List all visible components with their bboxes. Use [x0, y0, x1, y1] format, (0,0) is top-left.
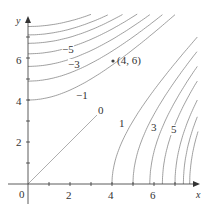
y-tick-4: 4 [16, 95, 22, 107]
point-label: (4, 6) [117, 54, 141, 67]
level-label-0: 0 [98, 104, 104, 116]
x-axis-arrow-icon [193, 181, 200, 187]
level-curve [190, 132, 198, 185]
level-curve [133, 52, 197, 184]
level-label-neg1: −1 [76, 89, 88, 101]
level-curve [175, 100, 197, 184]
level-curve [28, 14, 91, 26]
level-label-neg5: −5 [62, 43, 74, 55]
origin-label: 0 [19, 188, 25, 200]
level-label-5: 5 [171, 123, 177, 135]
level-curve [28, 15, 108, 35]
level-curve [28, 15, 123, 44]
level-curve [28, 15, 162, 81]
contour-plot: 0 2 4 6 2 4 6 x y −5 −3 −1 0 1 3 5 (4, 6… [0, 0, 215, 214]
x-axis-label: x [195, 189, 201, 200]
x-tick-6: 6 [150, 189, 156, 201]
level-label-neg3: −3 [68, 58, 80, 70]
point-marker [111, 59, 114, 62]
level-curve-zero [28, 115, 97, 184]
y-tick-6: 6 [16, 54, 22, 66]
y-tick-2: 2 [16, 136, 22, 148]
level-label-3: 3 [151, 121, 157, 133]
y-axis-label: y [15, 15, 21, 26]
y-axis-arrow-icon [25, 16, 31, 23]
level-label-1: 1 [119, 117, 125, 129]
x-tick-2: 2 [66, 189, 72, 201]
x-tick-4: 4 [108, 189, 114, 201]
